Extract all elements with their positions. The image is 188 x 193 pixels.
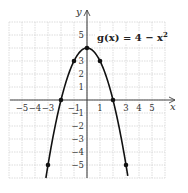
- data-point: [59, 98, 64, 103]
- x-tick-label: 3: [123, 103, 128, 113]
- y-tick-label: −5: [71, 160, 84, 170]
- y-tick-label: −1: [71, 108, 84, 118]
- x-tick-label: −3: [42, 103, 55, 113]
- parabola-chart: −5−4−3−113455321−1−2−3−4−5 g(x) = 4 − x2…: [0, 0, 188, 193]
- data-point: [111, 98, 116, 103]
- x-tick-label: 4: [136, 103, 141, 113]
- y-tick-label: 5: [79, 30, 84, 40]
- function-label: g(x) = 4 − x2: [97, 30, 168, 43]
- y-tick-label: −3: [71, 134, 84, 144]
- data-point: [46, 163, 51, 168]
- data-point: [124, 163, 129, 168]
- y-tick-label: −2: [71, 121, 84, 131]
- x-tick-label: 1: [97, 103, 102, 113]
- y-axis-label: y: [75, 6, 82, 17]
- x-tick-label: −4: [29, 103, 42, 113]
- data-point: [98, 59, 103, 64]
- x-axis-label: x: [170, 101, 176, 112]
- y-tick-label: 2: [79, 69, 84, 79]
- x-tick-label: 5: [149, 103, 154, 113]
- y-tick-label: 1: [79, 82, 84, 92]
- y-tick-label: 3: [79, 56, 84, 66]
- data-point: [85, 46, 90, 51]
- x-tick-label: −5: [16, 103, 29, 113]
- data-point: [72, 59, 77, 64]
- y-tick-label: −4: [71, 147, 84, 157]
